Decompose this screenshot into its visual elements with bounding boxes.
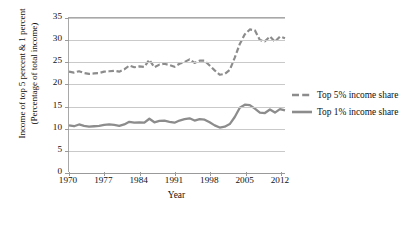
y-axis-title-line-1: Income of top 5 percent & 1 percent <box>17 0 29 159</box>
y-tick-label-5: 5 <box>36 145 62 154</box>
gridline-y-10 <box>69 129 285 130</box>
gridline-y-0 <box>69 173 285 174</box>
legend-item-top1: Top 1% income share <box>292 103 419 120</box>
x-tick-label-1998: 1998 <box>189 175 229 186</box>
legend-item-top5: Top 5% income share <box>292 86 419 103</box>
legend-label-top1: Top 1% income share <box>317 107 398 117</box>
gridline-y-5 <box>69 151 285 152</box>
x-tick-label-1984: 1984 <box>119 175 159 186</box>
y-tick-label-35: 35 <box>36 12 62 21</box>
x-axis-title: Year <box>68 190 285 200</box>
y-tick-mark-10 <box>65 129 69 130</box>
y-tick-label-30: 30 <box>36 35 62 44</box>
x-axis-tick-labels: 1970197719841991199820052012 <box>68 175 285 189</box>
income-share-chart: Income of top 5 percent & 1 percent (Per… <box>0 0 419 225</box>
gridline-y-15 <box>69 107 285 108</box>
y-tick-label-25: 25 <box>36 57 62 66</box>
legend-label-top5: Top 5% income share <box>317 90 398 100</box>
y-tick-mark-20 <box>65 84 69 85</box>
y-tick-label-10: 10 <box>36 123 62 132</box>
series-line-top1 <box>69 105 285 128</box>
y-tick-label-20: 20 <box>36 79 62 88</box>
x-tick-label-1991: 1991 <box>154 175 194 186</box>
y-tick-mark-35 <box>65 18 69 19</box>
x-tick-label-2012: 2012 <box>260 175 300 186</box>
x-tick-label-2005: 2005 <box>225 175 265 186</box>
legend-swatch-dashed <box>292 90 312 100</box>
gridline-y-30 <box>69 40 285 41</box>
plot-area <box>68 17 285 172</box>
y-axis-tick-labels: 05101520253035 <box>36 12 62 172</box>
x-tick-label-1977: 1977 <box>83 175 123 186</box>
y-tick-mark-15 <box>65 107 69 108</box>
gridline-y-25 <box>69 62 285 63</box>
series-line-top5 <box>69 29 285 74</box>
gridline-y-35 <box>69 18 285 19</box>
y-tick-mark-5 <box>65 151 69 152</box>
y-tick-mark-30 <box>65 40 69 41</box>
chart-legend: Top 5% income share Top 1% income share <box>292 86 419 120</box>
y-tick-label-15: 15 <box>36 101 62 110</box>
legend-swatch-solid <box>292 107 312 117</box>
y-tick-mark-25 <box>65 62 69 63</box>
x-tick-label-1970: 1970 <box>48 175 88 186</box>
gridline-y-20 <box>69 84 285 85</box>
